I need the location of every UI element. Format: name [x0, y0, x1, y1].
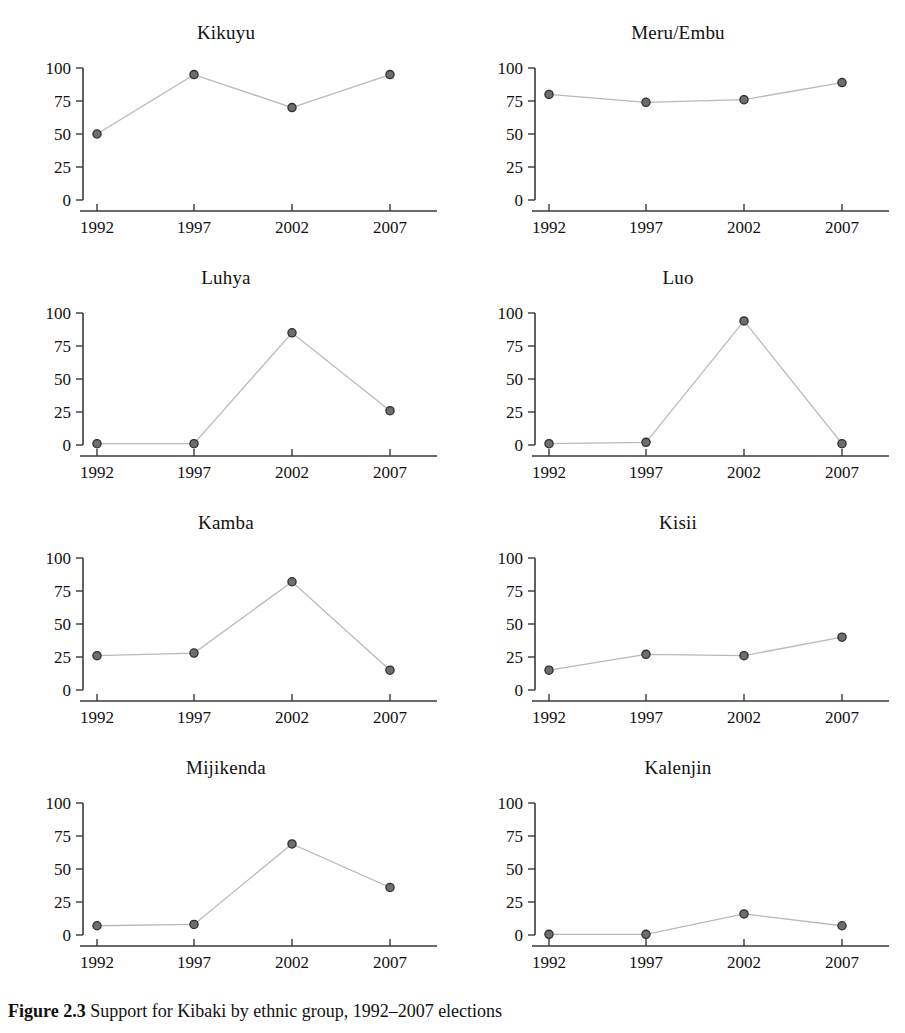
data-point — [838, 633, 846, 641]
data-point — [93, 922, 101, 930]
data-point — [386, 666, 394, 674]
x-tick-label: 2007 — [373, 708, 408, 727]
panel-luhya: Luhya02550751001992199720022007 — [0, 245, 452, 490]
panel-kalenjin: Kalenjin02550751001992199720022007 — [452, 735, 904, 980]
panel-plot: 02550751001992199720022007 — [452, 245, 904, 490]
data-point — [386, 883, 394, 891]
x-tick-label: 2007 — [825, 218, 860, 237]
data-point — [190, 71, 198, 79]
series-line — [549, 321, 842, 444]
x-tick-label: 1992 — [80, 953, 114, 972]
y-tick-label: 50 — [506, 125, 523, 144]
panel-plot: 02550751001992199720022007 — [452, 490, 904, 735]
y-tick-label: 75 — [54, 582, 71, 601]
series-line — [97, 844, 390, 926]
y-tick-label: 0 — [515, 191, 524, 210]
y-tick-label: 100 — [498, 304, 524, 323]
y-tick-label: 75 — [54, 337, 71, 356]
panel-plot: 02550751001992199720022007 — [452, 735, 904, 980]
panel-plot: 02550751001992199720022007 — [0, 490, 452, 735]
series-line — [549, 83, 842, 103]
x-tick-label: 2007 — [825, 463, 860, 482]
x-tick-label: 1992 — [80, 463, 114, 482]
x-tick-label: 1992 — [80, 708, 114, 727]
data-point — [386, 71, 394, 79]
data-point — [642, 650, 650, 658]
panel-meru-embu: Meru/Embu02550751001992199720022007 — [452, 0, 904, 245]
series-line — [549, 914, 842, 934]
data-point — [838, 78, 846, 86]
series-line — [97, 333, 390, 444]
figure-small-multiples: Kikuyu02550751001992199720022007Meru/Emb… — [0, 0, 905, 1033]
y-tick-label: 100 — [46, 59, 72, 78]
y-tick-label: 25 — [506, 158, 523, 177]
y-tick-label: 25 — [54, 158, 71, 177]
data-point — [545, 440, 553, 448]
x-tick-label: 1997 — [177, 463, 212, 482]
y-tick-label: 0 — [63, 926, 72, 945]
data-point — [386, 407, 394, 415]
y-tick-label: 100 — [498, 59, 524, 78]
panel-plot: 02550751001992199720022007 — [0, 245, 452, 490]
x-tick-label: 1997 — [629, 708, 664, 727]
data-point — [288, 329, 296, 337]
y-tick-label: 100 — [46, 794, 72, 813]
x-tick-label: 2007 — [825, 708, 860, 727]
x-tick-label: 2007 — [373, 218, 408, 237]
x-tick-label: 1997 — [177, 708, 212, 727]
x-tick-label: 2007 — [373, 463, 408, 482]
y-tick-label: 75 — [506, 582, 523, 601]
data-point — [642, 438, 650, 446]
data-point — [93, 130, 101, 138]
y-tick-label: 25 — [54, 893, 71, 912]
y-tick-label: 25 — [506, 403, 523, 422]
x-tick-label: 1992 — [532, 708, 566, 727]
y-tick-label: 75 — [506, 92, 523, 111]
y-tick-label: 50 — [506, 860, 523, 879]
panel-plot: 02550751001992199720022007 — [452, 0, 904, 245]
x-tick-label: 1997 — [629, 953, 664, 972]
x-tick-label: 1992 — [532, 218, 566, 237]
y-tick-label: 100 — [498, 549, 524, 568]
y-tick-label: 25 — [54, 403, 71, 422]
data-point — [642, 98, 650, 106]
data-point — [288, 840, 296, 848]
x-tick-label: 2002 — [727, 218, 761, 237]
y-tick-label: 0 — [515, 926, 524, 945]
y-tick-label: 25 — [506, 893, 523, 912]
x-tick-label: 2002 — [275, 463, 309, 482]
data-point — [740, 96, 748, 104]
x-tick-label: 1992 — [532, 463, 566, 482]
panel-kamba: Kamba02550751001992199720022007 — [0, 490, 452, 735]
y-tick-label: 0 — [515, 681, 524, 700]
y-tick-label: 75 — [54, 827, 71, 846]
x-tick-label: 2007 — [825, 953, 860, 972]
y-tick-label: 100 — [498, 794, 524, 813]
y-tick-label: 0 — [63, 191, 72, 210]
y-tick-label: 50 — [54, 860, 71, 879]
data-point — [190, 649, 198, 657]
y-tick-label: 50 — [54, 615, 71, 634]
y-tick-label: 0 — [63, 436, 72, 455]
x-tick-label: 1992 — [532, 953, 566, 972]
data-point — [838, 922, 846, 930]
data-point — [838, 440, 846, 448]
y-tick-label: 50 — [506, 370, 523, 389]
y-tick-label: 25 — [506, 648, 523, 667]
panel-mijikenda: Mijikenda02550751001992199720022007 — [0, 735, 452, 980]
data-point — [642, 930, 650, 938]
y-tick-label: 75 — [54, 92, 71, 111]
data-point — [288, 104, 296, 112]
data-point — [190, 920, 198, 928]
panel-plot: 02550751001992199720022007 — [0, 0, 452, 245]
data-point — [545, 930, 553, 938]
panel-plot: 02550751001992199720022007 — [0, 735, 452, 980]
figure-caption: Figure 2.3 Support for Kibaki by ethnic … — [8, 1001, 898, 1022]
panel-kikuyu: Kikuyu02550751001992199720022007 — [0, 0, 452, 245]
x-tick-label: 1992 — [80, 218, 114, 237]
data-point — [740, 317, 748, 325]
x-tick-label: 2002 — [727, 953, 761, 972]
y-tick-label: 25 — [54, 648, 71, 667]
x-tick-label: 2002 — [727, 463, 761, 482]
x-tick-label: 2002 — [275, 953, 309, 972]
